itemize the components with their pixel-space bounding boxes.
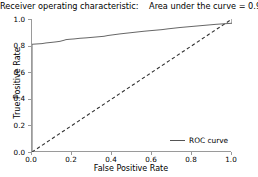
y-axis-label: True Positive Rate bbox=[13, 28, 23, 138]
y-tick-mark bbox=[28, 152, 31, 153]
x-axis-label: False Positive Rate bbox=[31, 164, 231, 174]
y-tick-mark bbox=[28, 46, 31, 47]
y-tick-label: 1.0 bbox=[7, 15, 25, 24]
y-tick-mark bbox=[28, 125, 31, 126]
x-tick-label: 1.0 bbox=[218, 155, 244, 164]
y-tick-mark bbox=[28, 72, 31, 73]
x-tick-label: 0.8 bbox=[178, 155, 204, 164]
y-tick-mark bbox=[28, 19, 31, 20]
x-tick-label: 0.2 bbox=[58, 155, 84, 164]
legend-label-roc-curve: ROC curve bbox=[189, 136, 228, 145]
roc-chart-figure: Receiver operating characteristic: Area … bbox=[0, 0, 258, 177]
x-tick-label: 0.6 bbox=[138, 155, 164, 164]
legend-line-swatch bbox=[170, 140, 185, 141]
chart-legend: ROC curve bbox=[168, 133, 230, 147]
x-tick-label: 0.4 bbox=[98, 155, 124, 164]
chart-title: Receiver operating characteristic: Area … bbox=[0, 1, 258, 12]
y-tick-label: 0.0 bbox=[7, 148, 25, 157]
y-tick-mark bbox=[28, 99, 31, 100]
